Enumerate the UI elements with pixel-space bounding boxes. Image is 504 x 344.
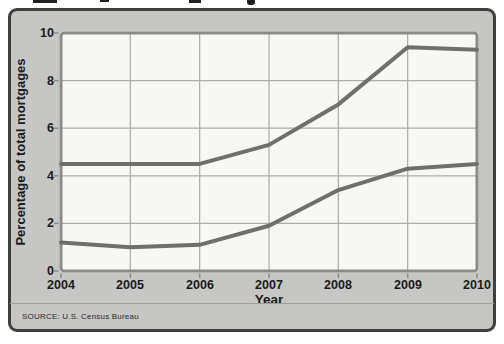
x-axis-tick-label: 2010 xyxy=(452,277,502,293)
x-axis-tick-label: 2008 xyxy=(313,277,363,293)
x-axis-tick-label: 2007 xyxy=(244,277,294,293)
x-axis-tick-label: 2009 xyxy=(383,277,433,293)
x-axis-tick-label: 2004 xyxy=(36,277,86,293)
chart-figure: 10 8 6 4 2 0 2004 2005 2006 2007 2008 20… xyxy=(0,0,504,344)
cropped-title-fragment xyxy=(247,0,255,5)
cropped-title-fragment xyxy=(189,0,201,3)
y-axis-tick-label: 10 xyxy=(22,25,54,41)
source-note: SOURCE: U.S. Census Bureau xyxy=(22,312,139,321)
x-axis-tick-label: 2006 xyxy=(175,277,225,293)
cropped-page-title xyxy=(0,0,504,7)
cropped-title-fragment xyxy=(100,0,109,2)
cropped-title-fragment xyxy=(33,0,57,3)
source-divider xyxy=(10,303,494,304)
x-axis-title: Year xyxy=(219,292,319,307)
x-axis-tick-label: 2005 xyxy=(105,277,155,293)
y-axis-title: Percentage of total mortgages xyxy=(13,58,28,245)
